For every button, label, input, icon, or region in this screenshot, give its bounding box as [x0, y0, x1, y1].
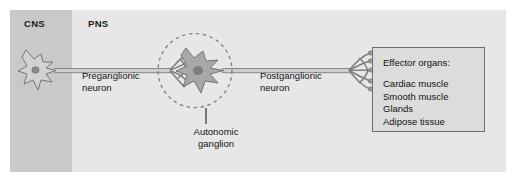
effector-organ-item: Glands: [383, 103, 448, 116]
autonomic-pathway-figure: CNS PNS: [0, 0, 517, 182]
effector-organs-list: Cardiac muscle Smooth muscle Glands Adip…: [383, 78, 448, 128]
effector-organ-item: Smooth muscle: [383, 91, 448, 104]
axon-terminal-branches: [349, 53, 371, 89]
ganglion-neuron: [176, 48, 224, 93]
effector-organ-item: Adipose tissue: [383, 116, 448, 129]
label-preganglionic-neuron: Preganglionic neuron: [82, 70, 140, 93]
cns-neuron: [18, 50, 56, 90]
effector-organs-title: Effector organs:: [383, 57, 450, 68]
effector-organs-box: Effector organs: Cardiac muscle Smooth m…: [372, 47, 485, 132]
label-postganglionic-neuron: Postganglionic neuron: [260, 70, 322, 93]
label-autonomic-ganglion: Autonomic ganglion: [173, 126, 259, 149]
effector-organ-item: Cardiac muscle: [383, 78, 448, 91]
diagram-panel: CNS PNS: [10, 10, 506, 172]
